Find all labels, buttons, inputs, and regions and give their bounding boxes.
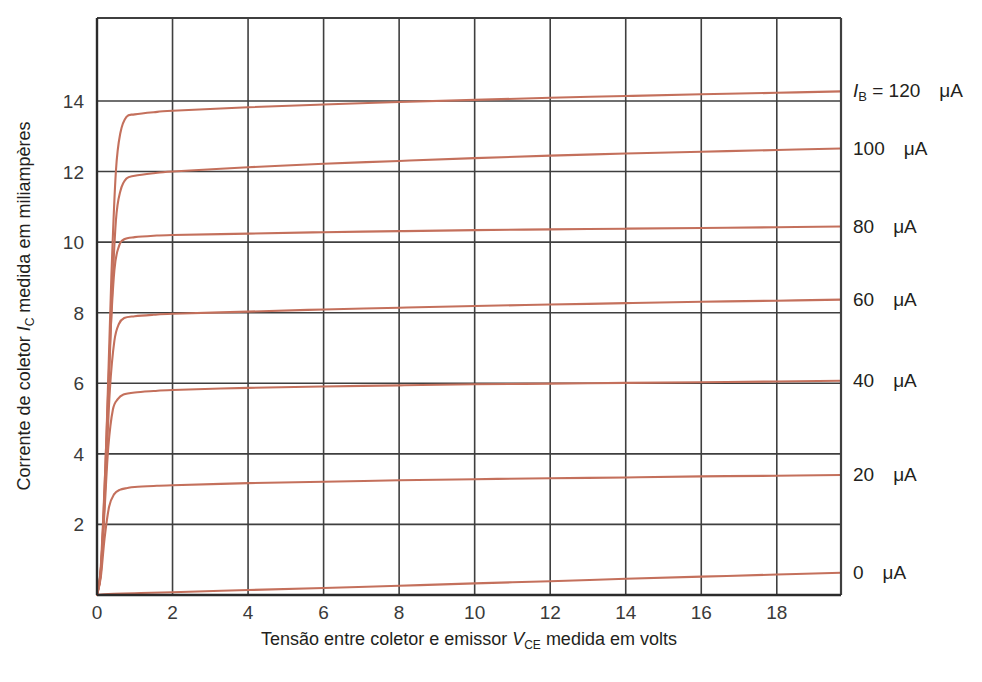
x-tick-label: 6 — [318, 602, 329, 623]
curve-label-text: IB = 120 μA — [853, 80, 963, 104]
x-tick-label: 2 — [167, 602, 178, 623]
y-tick-label: 4 — [73, 444, 84, 465]
x-tick-label: 8 — [394, 602, 405, 623]
y-tick-label: 2 — [73, 514, 84, 535]
x-tick-label: 14 — [615, 602, 637, 623]
curve-label-lbl-100: 100 μA — [853, 138, 928, 159]
y-tick-label: 8 — [73, 303, 84, 324]
curve-label-text: 80 μA — [853, 216, 917, 237]
x-tick-label: 10 — [464, 602, 485, 623]
curve-label-text: 0 μA — [853, 562, 907, 583]
x-tick-label: 4 — [243, 602, 254, 623]
figure-container: 024681012141618 2468101214 IB = 120 μA10… — [0, 0, 982, 682]
curve-label-text: 60 μA — [853, 289, 917, 310]
curve-label-text: 40 μA — [853, 370, 917, 391]
x-tick-label: 18 — [766, 602, 787, 623]
svg-text:Tensão entre coletor e emissor: Tensão entre coletor e emissor VCE medid… — [261, 629, 677, 652]
x-axis-title: Tensão entre coletor e emissor VCE medid… — [261, 629, 677, 652]
curve-label-text: 100 μA — [853, 138, 928, 159]
x-tick-label: 12 — [540, 602, 561, 623]
y-tick-label: 10 — [63, 232, 84, 253]
y-tick-label: 14 — [63, 91, 85, 112]
transistor-characteristic-chart: 024681012141618 2468101214 IB = 120 μA10… — [0, 0, 982, 682]
curve-label-lbl-80: 80 μA — [853, 216, 917, 237]
y-tick-label: 12 — [63, 162, 84, 183]
curve-label-lbl-120: IB = 120 μA — [853, 80, 963, 104]
chart-background — [0, 0, 982, 682]
x-tick-label: 0 — [92, 602, 103, 623]
curve-label-lbl-40: 40 μA — [853, 370, 917, 391]
y-tick-label: 6 — [73, 373, 84, 394]
curve-label-text: 20 μA — [853, 464, 917, 485]
svg-text:Corrente de coletor IC medida: Corrente de coletor IC medida em miliamp… — [14, 122, 37, 491]
curve-label-lbl-60: 60 μA — [853, 289, 917, 310]
y-axis-title: Corrente de coletor IC medida em miliamp… — [14, 122, 37, 491]
curve-label-lbl-0: 0 μA — [853, 562, 907, 583]
curve-label-lbl-20: 20 μA — [853, 464, 917, 485]
x-tick-label: 16 — [691, 602, 712, 623]
